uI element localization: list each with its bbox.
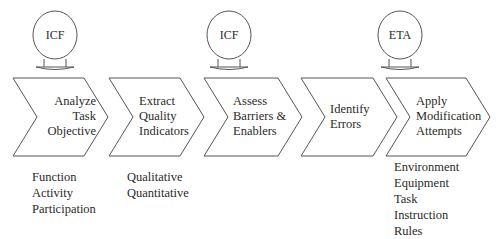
step-label-extract-quality-indicators: Extract Quality Indicators [139,94,199,139]
detail-item: Equipment [394,175,459,191]
step-label-identify-errors: Identify Errors [330,102,380,132]
detail-item: Participation [32,201,96,217]
detail-item: Task [394,191,459,207]
details-list-apply: Environment Equipment Task Instruction R… [394,159,459,239]
detail-item: Qualitative [127,169,189,185]
detail-item: Rules [394,223,459,239]
detail-item: Environment [394,159,459,175]
bubble-label-eta: ETA [370,28,430,42]
details-list-analyze: Function Activity Participation [32,169,96,217]
down-arrow-icon [381,59,419,70]
bubble-label-icf-2: ICF [199,28,259,42]
step-label-apply-modification-attempts: Apply Modification Attempts [416,94,496,139]
step-label-assess-barriers-enablers: Assess Barriers & Enablers [233,94,299,139]
detail-item: Instruction [394,207,459,223]
detail-item: Activity [32,185,96,201]
step-label-analyze-task-objective: Analyze Task Objective [46,94,96,139]
bubble-label-icf-1: ICF [25,28,85,42]
down-arrow-icon [36,59,74,70]
down-arrow-icon [210,59,248,70]
details-list-extract: Qualitative Quantitative [127,169,189,201]
detail-item: Quantitative [127,185,189,201]
detail-item: Function [32,169,96,185]
